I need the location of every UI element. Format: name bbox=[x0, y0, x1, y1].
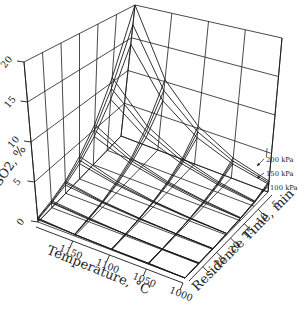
figure-container: 051015201150110010501000510152025SO2, %T… bbox=[0, 0, 306, 312]
surface-mesh-line bbox=[133, 25, 269, 183]
z-tick-mark bbox=[17, 61, 24, 62]
surface-mesh-line bbox=[95, 125, 241, 218]
surface-mesh-line bbox=[111, 99, 255, 202]
z-tick-mark bbox=[21, 101, 28, 102]
surface-mesh-line bbox=[95, 130, 241, 218]
z-tick-mark bbox=[24, 141, 31, 142]
z-axis-tick-label: 20 bbox=[0, 54, 14, 70]
surface-mesh-line bbox=[38, 25, 133, 219]
annotations: 200 kPa150 kPa100 kPa bbox=[257, 148, 298, 192]
pressure-label: 150 kPa bbox=[266, 170, 294, 178]
box-edge bbox=[268, 38, 282, 192]
floor-grid-line bbox=[112, 164, 195, 250]
surface-mesh-line bbox=[38, 5, 135, 218]
surface-mesh-line bbox=[148, 161, 233, 263]
x-axis-tick-label: 1000 bbox=[168, 284, 195, 303]
surface-mesh-line bbox=[112, 78, 255, 201]
surface-mesh-line bbox=[75, 101, 163, 235]
pressure-label: 200 kPa bbox=[266, 156, 294, 164]
z-tick-mark bbox=[28, 181, 35, 182]
z-tick-mark bbox=[31, 221, 38, 222]
z-axis-tick-label: 0 bbox=[14, 216, 26, 228]
right-wall-grid-line bbox=[135, 5, 282, 38]
right-wall-grid-line bbox=[132, 38, 279, 77]
so2-surface-plot: 051015201150110010501000510152025SO2, %T… bbox=[0, 0, 306, 312]
z-axis-tick-label: 5 bbox=[11, 176, 23, 188]
surface-mesh-line bbox=[65, 181, 213, 248]
pressure-label: 100 kPa bbox=[270, 184, 298, 192]
surface-mesh-line bbox=[65, 183, 213, 249]
right-wall-grid-line bbox=[128, 71, 275, 116]
pressure-leader-line bbox=[267, 148, 268, 157]
z-axis-tick-label: 15 bbox=[2, 94, 18, 110]
